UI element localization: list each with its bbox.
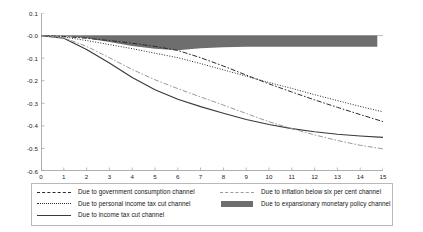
legend-key-dash-dot-light-icon bbox=[220, 188, 254, 197]
x-axis-tick-label: 5 bbox=[147, 172, 163, 181]
legend-column-left: Due to government consumption channelDue… bbox=[37, 187, 215, 222]
legend-item-label: Due to government consumption channel bbox=[78, 188, 195, 196]
x-axis-tick-label: 15 bbox=[375, 172, 391, 181]
x-axis-tick-label: 10 bbox=[261, 172, 277, 181]
series-line-due-to-government-consumption-channel bbox=[41, 36, 383, 122]
x-axis-tick-label: 6 bbox=[170, 172, 186, 181]
legend-key-dash-dot-dark-icon bbox=[37, 188, 71, 197]
legend-item-due-to-income-tax-cut-channel[interactable]: Due to income tax cut channel bbox=[37, 210, 215, 222]
legend-item-due-to-government-consumption-channel[interactable]: Due to government consumption channel bbox=[37, 187, 215, 199]
legend-item-label: Due to personal income tax cut channel bbox=[78, 200, 191, 208]
x-axis-tick-label: 11 bbox=[284, 172, 300, 181]
x-axis-tick-label: 2 bbox=[79, 172, 95, 181]
y-axis-tick-label: -0.1 bbox=[8, 55, 38, 62]
legend-column-right: Due to inflation below six per cent chan… bbox=[220, 187, 392, 210]
legend-item-due-to-personal-income-tax-cut-channel[interactable]: Due to personal income tax cut channel bbox=[37, 198, 215, 210]
y-axis-tick-label: 0.1 bbox=[8, 10, 38, 17]
legend-line-sample bbox=[220, 192, 254, 193]
legend-key-dotted-icon bbox=[37, 199, 71, 208]
legend-key-swatch-icon bbox=[220, 199, 254, 208]
x-axis-tick-label: 4 bbox=[124, 172, 140, 181]
legend-line-sample bbox=[37, 203, 71, 204]
y-axis-tick-label: -0.2 bbox=[8, 77, 38, 84]
legend-line-sample bbox=[37, 192, 71, 193]
legend-item-due-to-inflation-below-six-per-cent-channel[interactable]: Due to inflation below six per cent chan… bbox=[220, 187, 392, 199]
plot-area bbox=[41, 13, 383, 171]
x-axis-tick-label: 1 bbox=[56, 172, 72, 181]
band-expansionary-monetary-policy bbox=[41, 36, 377, 51]
legend-line-sample bbox=[37, 215, 71, 216]
legend-item-due-to-expansionary-monetary-policy-channel[interactable]: Due to expansionary monetary policy chan… bbox=[220, 198, 392, 210]
y-axis-tick-label: -0.0 bbox=[8, 32, 38, 39]
legend-key-solid-icon bbox=[37, 211, 71, 220]
legend-color-swatch bbox=[221, 201, 253, 207]
series-line-due-to-income-tax-cut-channel bbox=[41, 36, 383, 138]
x-axis-tick-label: 14 bbox=[352, 172, 368, 181]
y-axis-tick-label: -0.3 bbox=[8, 100, 38, 107]
x-axis-tick-label: 3 bbox=[101, 172, 117, 181]
chart-legend: Due to government consumption channelDue… bbox=[31, 183, 393, 226]
x-axis-tick-label: 0 bbox=[33, 172, 49, 181]
chart-figure: 0.1-0.0-0.1-0.2-0.3-0.4-0.5-0.6 01234567… bbox=[0, 0, 423, 232]
x-axis-tick-label: 12 bbox=[307, 172, 323, 181]
x-axis-tick-label: 7 bbox=[193, 172, 209, 181]
y-axis-tick-label: -0.5 bbox=[8, 145, 38, 152]
legend-item-label: Due to expansionary monetary policy chan… bbox=[261, 200, 391, 208]
legend-item-label: Due to inflation below six per cent chan… bbox=[261, 188, 381, 196]
x-axis-tick-label: 8 bbox=[215, 172, 231, 181]
y-axis-tick-label: -0.4 bbox=[8, 122, 38, 129]
x-axis-tick-label: 13 bbox=[329, 172, 345, 181]
plot-svg bbox=[41, 13, 383, 171]
y-axis-tick-labels: 0.1-0.0-0.1-0.2-0.3-0.4-0.5-0.6 bbox=[5, 13, 38, 171]
x-axis-tick-label: 9 bbox=[238, 172, 254, 181]
legend-item-label: Due to income tax cut channel bbox=[78, 211, 164, 219]
